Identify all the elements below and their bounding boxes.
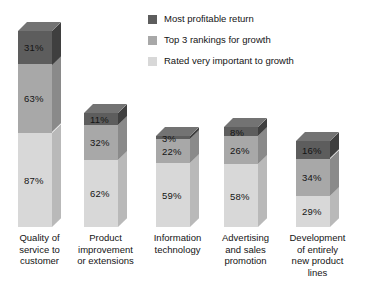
bar-value-label: 31%	[24, 42, 44, 53]
stacked-bar: 29%34%16%	[296, 141, 330, 227]
bar-segment-side-face	[118, 151, 127, 227]
category-label-line: Product	[70, 232, 141, 244]
category-label-line: Information	[142, 232, 213, 244]
bar-group: 62%32%11%	[84, 113, 118, 227]
bar-segment-side-face	[52, 56, 61, 133]
bar-segment: 16%	[296, 141, 330, 158]
bar-segment: 63%	[18, 64, 52, 132]
bar-group: 87%63%31%	[18, 31, 52, 227]
bar-segment: 58%	[224, 164, 258, 227]
bar-group: 58%26%8%	[224, 127, 258, 227]
category-label: Advertisingand salespromotion	[210, 232, 281, 267]
category-label-line: lines	[282, 267, 353, 279]
bar-segment: 3%	[156, 136, 190, 139]
bar-segment: 31%	[18, 31, 52, 65]
stacked-bar: 58%26%8%	[224, 127, 258, 227]
bar-segment: 34%	[296, 159, 330, 196]
category-label-line: Advertising	[210, 232, 281, 244]
bar-value-label: 58%	[230, 190, 250, 201]
bar-value-label: 11%	[90, 114, 109, 125]
bar-value-label: 62%	[90, 188, 110, 199]
bar-segment: 59%	[156, 163, 190, 227]
bar-segment-side-face	[258, 155, 267, 227]
category-label: Informationtechnology	[142, 232, 213, 255]
category-label-line: or extensions	[70, 255, 141, 267]
bar-value-label: 32%	[90, 137, 110, 148]
category-label-line: of entirely	[282, 244, 353, 256]
bar-group: 29%34%16%	[296, 141, 330, 227]
bar-value-label: 59%	[162, 190, 182, 201]
bar-value-label: 22%	[162, 146, 182, 157]
bar-segment: 87%	[18, 133, 52, 227]
category-label: Developmentof entirelynew productlines	[282, 232, 353, 278]
category-label: Quality ofservice tocustomer	[4, 232, 75, 267]
category-label: Productimprovementor extensions	[70, 232, 141, 267]
bar-segment: 29%	[296, 196, 330, 227]
stacked-bar: 87%63%31%	[18, 31, 52, 227]
stacked-bar-chart: Most profitable return Top 3 rankings fo…	[0, 0, 378, 288]
bar-value-label: 26%	[230, 144, 250, 155]
bar-value-label: 8%	[230, 126, 244, 137]
bar-segment-side-face	[52, 124, 61, 227]
bar-group: 59%22%3%	[156, 136, 190, 227]
bar-segment: 8%	[224, 127, 258, 136]
bar-value-label: 87%	[24, 174, 44, 185]
bar-value-label: 16%	[302, 144, 322, 155]
bar-value-label: 63%	[24, 93, 44, 104]
category-label-line: promotion	[210, 255, 281, 267]
stacked-bar: 59%22%3%	[156, 136, 190, 227]
category-label-line: Quality of	[4, 232, 75, 244]
bar-segment-side-face	[190, 154, 199, 227]
stacked-bar: 62%32%11%	[84, 113, 118, 227]
bar-segment: 11%	[84, 113, 118, 125]
category-label-line: service to	[4, 244, 75, 256]
category-label-line: new product	[282, 255, 353, 267]
category-label-line: improvement	[70, 244, 141, 256]
bar-value-label: 34%	[302, 172, 322, 183]
bar-segment: 62%	[84, 160, 118, 227]
category-label-line: customer	[4, 255, 75, 267]
bar-value-label: 29%	[302, 206, 322, 217]
bar-segment: 26%	[224, 136, 258, 164]
category-label-line: and sales	[210, 244, 281, 256]
category-label-line: technology	[142, 244, 213, 256]
category-label-line: Development	[282, 232, 353, 244]
plot-area: 87%63%31%Quality ofservice tocustomer62%…	[0, 0, 378, 288]
bar-segment: 32%	[84, 125, 118, 160]
